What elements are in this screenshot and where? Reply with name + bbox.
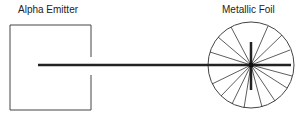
scattering-diagram [0,0,299,118]
alpha-emitter-box [10,25,91,110]
nucleus-dot [249,63,254,68]
